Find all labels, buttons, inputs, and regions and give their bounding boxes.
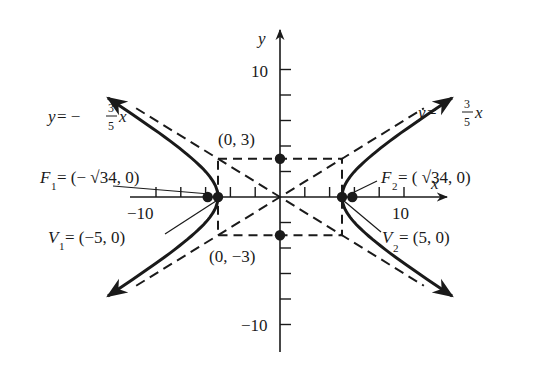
vertex-label-v2: V 2 = (5, 0) bbox=[382, 228, 450, 254]
asymptote-label-left: y = − 3 5 x bbox=[46, 101, 127, 133]
svg-text:x: x bbox=[474, 103, 483, 122]
svg-text:3: 3 bbox=[464, 97, 470, 111]
svg-text:=: = bbox=[427, 103, 437, 122]
x-tick-label-neg10: −10 bbox=[127, 204, 154, 223]
svg-text:1: 1 bbox=[51, 180, 57, 192]
focus-label-f1: F 1 = (− √34, 0) bbox=[39, 168, 139, 192]
hyperbola-diagram: y x 10 −10 −10 10 y = − 3 5 x y = 3 5 x … bbox=[0, 0, 537, 368]
y-tick-label-neg10: −10 bbox=[241, 316, 268, 335]
svg-text:2: 2 bbox=[392, 180, 398, 192]
point-f2 bbox=[347, 192, 357, 202]
svg-text:5: 5 bbox=[108, 119, 114, 133]
point-b1 bbox=[275, 154, 285, 164]
focus-label-f2: F 2 = ( √34, 0) bbox=[380, 168, 471, 192]
svg-text:1: 1 bbox=[59, 240, 65, 252]
svg-text:= (5, 0): = (5, 0) bbox=[399, 228, 450, 247]
asymptote-label-right: y = 3 5 x bbox=[416, 97, 483, 129]
point-v2 bbox=[337, 192, 347, 202]
x-tick-label-10: 10 bbox=[392, 204, 409, 223]
svg-text:F: F bbox=[39, 168, 51, 187]
svg-text:= (−5, 0): = (−5, 0) bbox=[65, 228, 125, 247]
svg-text:F: F bbox=[380, 168, 392, 187]
svg-text:= ( √34, 0): = ( √34, 0) bbox=[398, 168, 471, 187]
vertex-label-v1: V 1 = (−5, 0) bbox=[48, 228, 125, 252]
point-f1 bbox=[202, 192, 212, 202]
svg-text:= −: = − bbox=[57, 107, 80, 126]
svg-text:y: y bbox=[416, 103, 426, 122]
svg-text:y: y bbox=[46, 107, 56, 126]
svg-text:3: 3 bbox=[108, 101, 114, 115]
co-vertex-label-bottom: (0, −3) bbox=[209, 247, 255, 266]
point-v1 bbox=[213, 192, 223, 202]
point-b2 bbox=[275, 230, 285, 240]
svg-text:x: x bbox=[118, 107, 127, 126]
svg-text:= (− √34, 0): = (− √34, 0) bbox=[57, 168, 139, 187]
co-vertex-label-top: (0, 3) bbox=[218, 130, 255, 149]
svg-text:5: 5 bbox=[464, 115, 470, 129]
y-tick-label-10: 10 bbox=[251, 62, 268, 81]
svg-text:2: 2 bbox=[393, 242, 399, 254]
leader-f1 bbox=[113, 186, 210, 194]
y-axis-label: y bbox=[256, 29, 266, 48]
